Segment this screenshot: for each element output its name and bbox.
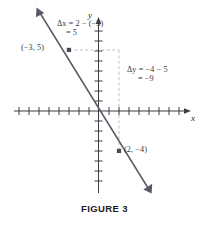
delta-x-line2: = 5 xyxy=(57,28,103,37)
point-label-a: (−3, 5) xyxy=(21,43,44,52)
delta-x-line1: Δx = 2 − (−3) xyxy=(57,19,103,28)
delta-y-line1: Δy = −4 − 5 xyxy=(127,65,168,74)
coordinate-plane: x y xyxy=(0,0,209,200)
point-marker-a xyxy=(67,48,71,52)
plotted-line-segment xyxy=(40,13,148,188)
plotted-line-arrowhead-lower xyxy=(143,184,152,194)
point-marker-b xyxy=(117,149,121,153)
delta-y-line2: = −9 xyxy=(127,74,168,83)
delta-x-annotation: Δx = 2 − (−3) = 5 xyxy=(57,19,103,37)
delta-y-annotation: Δy = −4 − 5 = −9 xyxy=(127,65,168,83)
point-label-b: (2, −4) xyxy=(124,145,147,154)
x-axis-arrowhead xyxy=(184,108,191,114)
figure-container: x y Δx = 2 − (−3) = 5 Δy = −4 − 5 = −9 (… xyxy=(0,0,209,228)
plotted-line-arrowhead-upper xyxy=(36,8,44,18)
figure-caption: FIGURE 3 xyxy=(0,203,209,214)
y-axis xyxy=(95,17,103,193)
x-axis-label: x xyxy=(190,113,195,123)
